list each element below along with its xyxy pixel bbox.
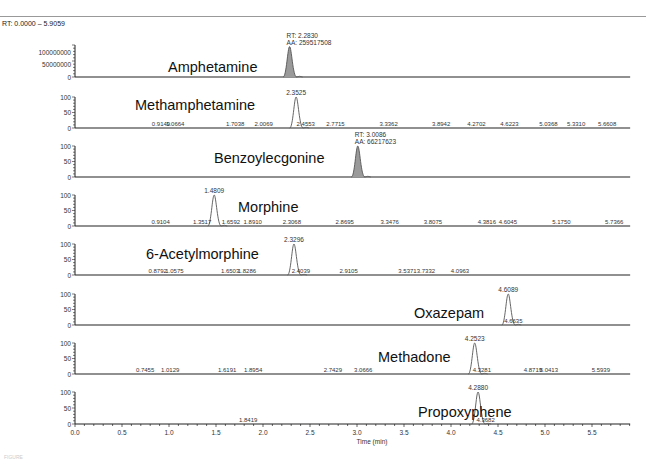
y-tick-label: 100 (60, 94, 71, 101)
minor-peak-label: 4.2702 (467, 121, 486, 127)
compound-name: Morphine (238, 199, 298, 215)
x-tick-label: 2.0 (258, 429, 267, 436)
y-tick-label: 100 (60, 241, 71, 248)
minor-peak-label: 3.8942 (432, 121, 451, 127)
x-tick-label: 2.5 (305, 429, 314, 436)
y-tick-label: 50 (64, 109, 72, 116)
peak-rt-annotation: 4.2523 (465, 335, 485, 342)
y-tick-label: 0 (67, 272, 71, 279)
minor-peak-label: 5.3310 (567, 121, 586, 127)
y-tick-label: 50 (64, 158, 72, 165)
y-tick-label: 0 (67, 125, 71, 132)
x-tick-label: 1.5 (211, 429, 220, 436)
panel-propoxyphene: 1005004.28801.84194.3682Propoxyphene (60, 384, 630, 428)
x-tick-label: 3.5 (399, 429, 408, 436)
minor-peak-label: 4.0963 (451, 268, 470, 274)
peak-rt-annotation: 4.6089 (498, 286, 518, 293)
y-tick-label: 100 (60, 389, 71, 396)
figure-caption: FIGURE (4, 454, 23, 460)
panel-methamphetamine: 1005002.35250.91491.06641.70382.00692.45… (60, 89, 630, 132)
minor-peak-label: 1.0129 (161, 367, 180, 373)
compound-name: Methadone (378, 349, 451, 365)
y-tick-label: 100000000 (38, 49, 71, 56)
minor-peak-label: 1.6191 (218, 367, 237, 373)
minor-peak-label: 4.6045 (499, 219, 518, 225)
panel-6-acetylmorphine: 1005002.32960.87921.05751.65031.82862.40… (60, 236, 630, 279)
x-tick-label: 4.0 (446, 429, 455, 436)
x-tick-label: 0.0 (70, 429, 79, 436)
x-axis: 0.00.51.01.52.02.53.03.54.04.55.05.5Time… (70, 424, 629, 446)
minor-peak-label: 1.0575 (165, 268, 184, 274)
minor-peak-label: 4.6635 (504, 318, 523, 324)
x-tick-label: 0.5 (117, 429, 126, 436)
y-tick-label: 0 (67, 223, 71, 230)
minor-peak-label: 5.6608 (598, 121, 617, 127)
peak-rt-annotation: 2.3296 (284, 236, 304, 243)
minor-peak-label: 3.8075 (424, 219, 443, 225)
y-tick-label: 0 (67, 421, 71, 428)
y-tick-label: 0 (67, 322, 71, 329)
minor-peak-label: 3.3362 (379, 121, 398, 127)
x-tick-label: 5.5 (587, 429, 596, 436)
minor-peak-label: 3.7332 (417, 268, 436, 274)
x-tick-label: 4.5 (493, 429, 502, 436)
minor-peak-label: 1.3517 (193, 219, 212, 225)
minor-peak-label: 2.0069 (254, 121, 273, 127)
compound-name: Benzoylecgonine (214, 150, 324, 166)
minor-peak-label: 3.3476 (380, 219, 399, 225)
chromatogram-stack: 100000000500000000RT: 2.2830AA: 25951750… (0, 0, 646, 463)
peak-rt-annotation: 4.2880 (468, 384, 488, 391)
peak-trace (283, 47, 296, 77)
y-tick-label: 50 (64, 256, 72, 263)
minor-peak-label: 3.0666 (354, 367, 373, 373)
y-tick-label: 50 (64, 306, 72, 313)
minor-peak-label: 5.0413 (540, 367, 559, 373)
minor-peak-label: 1.8954 (244, 367, 263, 373)
x-tick-label: 1.0 (164, 429, 173, 436)
y-tick-label: 50 (64, 207, 72, 214)
minor-peak-label: 4.3816 (478, 219, 497, 225)
minor-peak-label: 4.3281 (473, 367, 492, 373)
minor-peak-label: 2.4553 (297, 121, 316, 127)
panel-amphetamine: 100000000500000000RT: 2.2830AA: 25951750… (38, 32, 630, 81)
compound-name: Oxazepam (414, 305, 484, 321)
minor-peak-label: 2.4039 (292, 268, 311, 274)
minor-peak-label: 1.8910 (244, 219, 263, 225)
panel-oxazepam: 1005004.60894.6635Oxazepam (60, 286, 630, 329)
y-tick-label: 0 (67, 371, 71, 378)
x-tick-label: 5.0 (540, 429, 549, 436)
y-tick-label: 50 (64, 405, 72, 412)
minor-peak-label: 1.8419 (239, 417, 258, 423)
y-tick-label: 100 (60, 340, 71, 347)
compound-name: Amphetamine (168, 59, 257, 75)
minor-peak-label: 2.7715 (326, 121, 345, 127)
y-tick-label: 50000000 (42, 61, 71, 68)
minor-peak-label: 2.3068 (283, 219, 302, 225)
panel-methadone: 1005004.25230.74551.01291.61911.89542.74… (60, 335, 630, 378)
compound-name: Propoxyphene (418, 404, 512, 420)
minor-peak-label: 0.7455 (136, 367, 155, 373)
minor-peak-label: 3.5371 (398, 268, 417, 274)
minor-peak-label: 1.6592 (222, 219, 241, 225)
y-tick-label: 100 (60, 192, 71, 199)
peak-rt-annotation: 1.4809 (204, 187, 224, 194)
y-tick-label: 0 (67, 74, 71, 81)
y-tick-label: 50 (64, 355, 72, 362)
minor-peak-label: 2.7429 (324, 367, 343, 373)
peak-rt-annotation: RT: 2.2830 (287, 32, 319, 39)
panel-benzoylecgonine: 100500RT: 3.0086AA: 66217623Benzoylecgon… (60, 131, 630, 181)
minor-peak-label: 2.8695 (336, 219, 355, 225)
minor-peak-label: 5.7366 (605, 219, 624, 225)
x-axis-title: Time (min) (357, 438, 388, 446)
peak-trace (351, 146, 364, 177)
panel-morphine: 1005001.48090.91041.35171.65921.89102.30… (60, 187, 630, 230)
minor-peak-label: 0.9104 (151, 219, 170, 225)
minor-peak-label: 5.0368 (539, 121, 558, 127)
minor-peak-label: 1.8286 (238, 268, 257, 274)
minor-peak-label: 4.6223 (500, 121, 519, 127)
minor-peak-label: 1.0664 (166, 121, 185, 127)
compound-name: Methamphetamine (135, 97, 255, 113)
y-tick-label: 100 (60, 291, 71, 298)
peak-rt-annotation: 2.3525 (286, 89, 306, 96)
x-tick-label: 3.0 (352, 429, 361, 436)
